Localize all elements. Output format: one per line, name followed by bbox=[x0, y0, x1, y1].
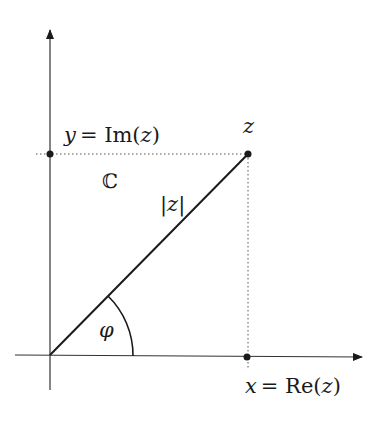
label-z: z bbox=[242, 114, 255, 138]
label-angle: φ bbox=[99, 318, 114, 342]
modulus-vector bbox=[50, 154, 248, 355]
label-modulus: |z| bbox=[160, 192, 185, 217]
point-real bbox=[244, 354, 251, 361]
complex-plane-diagram: z y= Im(z) ℂ |z| φ x= Re(z) bbox=[0, 0, 367, 427]
label-re-eq: = Re( bbox=[261, 374, 322, 398]
label-re-close: ) bbox=[333, 374, 341, 398]
point-z bbox=[245, 151, 252, 158]
point-imaginary bbox=[47, 151, 54, 158]
label-im-y: y bbox=[63, 123, 77, 147]
label-im-eq: = Im( bbox=[80, 123, 141, 147]
label-im-z: z bbox=[140, 123, 153, 147]
label-re-x: x bbox=[245, 374, 257, 398]
label-im-close: ) bbox=[152, 123, 160, 147]
real-axis bbox=[15, 355, 362, 357]
label-re-z: z bbox=[321, 374, 334, 398]
label-complex-plane: ℂ bbox=[102, 169, 118, 193]
label-real-part: x= Re(z) bbox=[245, 374, 341, 398]
label-imaginary-part: y= Im(z) bbox=[63, 123, 160, 147]
